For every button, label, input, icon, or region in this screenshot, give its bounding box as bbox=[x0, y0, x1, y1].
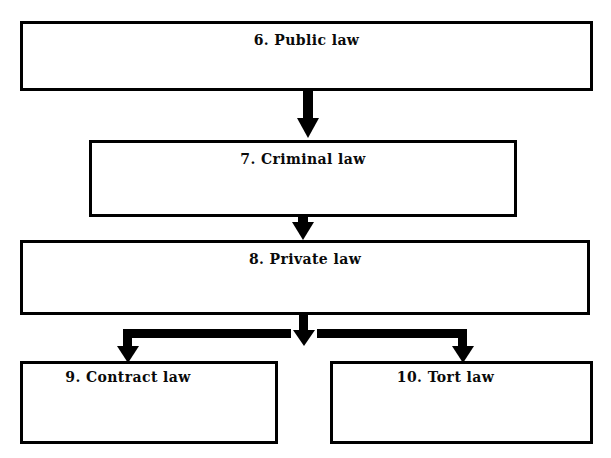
node-criminal-law[interactable]: 7. Criminal law bbox=[89, 140, 517, 217]
arrow-public-to-criminal bbox=[297, 91, 319, 138]
branch-connector-private-law bbox=[117, 314, 474, 363]
node-private-law-label: 8. Private law bbox=[23, 251, 587, 267]
flowchart-diagram: 6. Public law 7. Criminal law 8. Private… bbox=[0, 0, 611, 458]
node-criminal-law-label: 7. Criminal law bbox=[92, 151, 514, 167]
node-public-law-label: 6. Public law bbox=[23, 32, 590, 48]
arrow-criminal-to-private bbox=[292, 216, 314, 240]
node-contract-law-label: 9. Contract law bbox=[0, 369, 275, 385]
node-public-law[interactable]: 6. Public law bbox=[20, 21, 593, 91]
node-contract-law[interactable]: 9. Contract law bbox=[20, 361, 278, 444]
node-private-law[interactable]: 8. Private law bbox=[20, 240, 590, 315]
node-tort-law[interactable]: 10. Tort law bbox=[330, 361, 593, 444]
node-tort-law-label: 10. Tort law bbox=[301, 369, 590, 385]
